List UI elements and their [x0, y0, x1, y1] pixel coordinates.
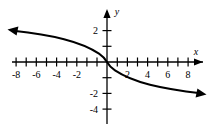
x-tick-label: -6	[32, 69, 40, 80]
x-tick-label: -4	[52, 69, 60, 80]
x-tick-label: 4	[145, 69, 150, 80]
y-axis-label: y	[114, 6, 120, 17]
curve-right-arrowhead-icon	[196, 89, 207, 98]
y-tick-label: -4	[90, 104, 98, 115]
x-axis-label: x	[193, 46, 199, 57]
coordinate-plane: -8 -6 -4 -2 2 4 6 8 2 -2 -4 x y	[0, 0, 214, 130]
x-tick-label: -2	[73, 69, 81, 80]
y-tick-label: -2	[90, 88, 98, 99]
y-axis-arrowhead-icon	[103, 9, 110, 18]
x-tick-labels: -8 -6 -4 -2 2 4 6 8	[12, 69, 191, 80]
x-tick-label: 6	[165, 69, 170, 80]
y-tick-labels: 2 -2 -4	[90, 25, 98, 115]
axes-group	[12, 9, 203, 124]
x-axis-arrowhead-icon	[194, 58, 203, 65]
graph-figure: -8 -6 -4 -2 2 4 6 8 2 -2 -4 x y	[0, 0, 214, 130]
x-tick-label: -8	[12, 69, 20, 80]
x-tick-label: 8	[186, 69, 191, 80]
y-tick-label: 2	[93, 25, 98, 36]
curve-left-arrowhead-icon	[8, 27, 19, 36]
